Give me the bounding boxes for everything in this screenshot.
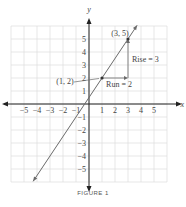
svg-text:5: 5 bbox=[152, 106, 156, 115]
coordinate-plane-figure: xy −5−4−3−2−11234554321−1−2−3−4−5 Run = … bbox=[0, 0, 186, 207]
svg-text:−5: −5 bbox=[77, 165, 86, 174]
svg-text:4: 4 bbox=[139, 106, 143, 115]
figure-caption: FIGURE 1 bbox=[0, 190, 186, 196]
svg-text:−5: −5 bbox=[20, 106, 29, 115]
svg-text:5: 5 bbox=[82, 35, 86, 44]
svg-text:2: 2 bbox=[82, 74, 86, 83]
svg-text:Run = 2: Run = 2 bbox=[106, 80, 132, 89]
svg-text:4: 4 bbox=[82, 48, 86, 57]
svg-text:−3: −3 bbox=[77, 139, 86, 148]
axes: xy bbox=[2, 5, 184, 192]
svg-text:−3: −3 bbox=[46, 106, 55, 115]
rise-run-annotations: Run = 2Rise = 3 bbox=[102, 39, 159, 89]
svg-text:1: 1 bbox=[100, 106, 104, 115]
svg-text:y: y bbox=[86, 5, 91, 14]
data-points: (1, 2)(3, 5) bbox=[56, 29, 129, 86]
svg-text:−2: −2 bbox=[77, 126, 86, 135]
svg-text:−1: −1 bbox=[77, 113, 86, 122]
svg-text:2: 2 bbox=[113, 106, 117, 115]
svg-text:−4: −4 bbox=[77, 152, 86, 161]
svg-text:(1, 2): (1, 2) bbox=[56, 77, 74, 86]
svg-text:−2: −2 bbox=[59, 106, 68, 115]
svg-text:(3, 5): (3, 5) bbox=[111, 29, 129, 38]
svg-text:3: 3 bbox=[82, 61, 86, 70]
svg-text:1: 1 bbox=[82, 87, 86, 96]
svg-text:−4: −4 bbox=[33, 106, 42, 115]
svg-text:Rise = 3: Rise = 3 bbox=[132, 55, 159, 64]
svg-text:3: 3 bbox=[126, 106, 130, 115]
svg-text:x: x bbox=[179, 100, 184, 109]
